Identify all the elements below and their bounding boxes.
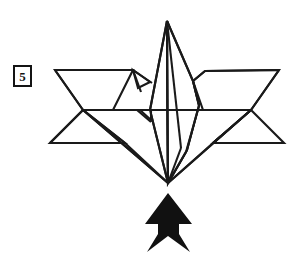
center-body-left-half bbox=[150, 21, 168, 183]
push-arrow-shape bbox=[145, 193, 192, 252]
right-lower-wing bbox=[213, 110, 284, 143]
origami-diagram: 5 bbox=[0, 0, 305, 261]
left-upper-wing bbox=[55, 70, 133, 110]
push-arrow bbox=[145, 193, 192, 252]
center-spine-line bbox=[167, 21, 168, 183]
right-upper-wing-top-edge bbox=[205, 70, 279, 71]
origami-figure bbox=[0, 0, 305, 261]
